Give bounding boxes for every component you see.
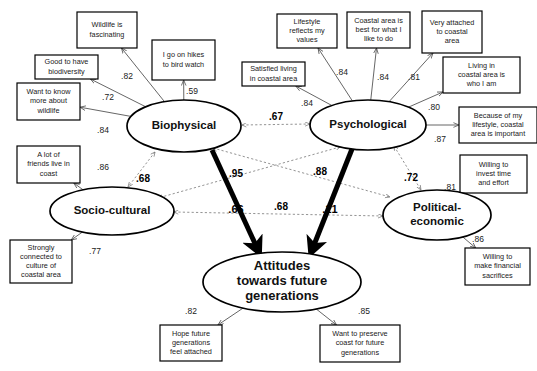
indicator-label: coastal area	[21, 270, 62, 279]
indicator-box: Hope futuregenerationsfeel attached	[160, 325, 222, 361]
construct-attitudes: Attitudestowards futuregenerations	[203, 252, 361, 312]
indicator-label: Hope future	[172, 329, 210, 338]
indicator-label: Want to preserve	[332, 329, 387, 338]
indicator-label: and effort	[478, 178, 509, 187]
indicator-label: to coastal	[436, 27, 468, 36]
factor-loading-label: .84	[301, 98, 313, 108]
indicator-label: feel attached	[170, 347, 212, 356]
indicator-label: wildlife	[37, 106, 60, 115]
construct-label: Socio-cultural	[74, 204, 151, 216]
construct-label: Political-	[413, 201, 461, 213]
indicator-label: fascinating	[90, 30, 125, 39]
factor-loading-label: .72	[102, 92, 114, 102]
construct-label: generations	[245, 288, 319, 303]
indicator-box: Satisfied livingin coastal area	[242, 62, 305, 86]
indicator-label: sacrifices	[482, 271, 513, 280]
correlation-coefficient: .72	[404, 172, 418, 183]
factor-loading-label: .86	[97, 162, 109, 172]
construct-label: Biophysical	[152, 119, 217, 131]
indicator-label: Satisfied living	[250, 64, 297, 73]
factor-loading-label: .85	[358, 306, 370, 316]
indicator-label: Lifestyle	[294, 17, 321, 26]
indicator-label: coast	[40, 169, 57, 178]
indicator-box: Very attachedto coastalarea	[422, 11, 482, 53]
construct-socio_cultural: Socio-cultural	[50, 187, 174, 235]
indicator-label: in coastal area	[250, 74, 298, 83]
indicator-label: Strongly	[28, 243, 55, 252]
indicator-box: Good to havebiodiversity	[35, 55, 98, 79]
structural-path-coefficient: .66	[228, 203, 243, 215]
correlation-coefficient: .95	[229, 168, 243, 179]
indicator-label: friends live in	[27, 159, 70, 168]
indicator-box: Lifestylereflects myvalues	[277, 14, 337, 48]
indicator-box: Want to preservecoast for futuregenerati…	[320, 325, 400, 362]
sem-path-diagram: Wildlife isfascinatingGood to havebiodiv…	[0, 0, 537, 371]
correlation-coefficient: .68	[274, 201, 288, 212]
factor-loading-label: .81	[408, 72, 420, 82]
indicator-label: invest time	[476, 169, 511, 178]
indicator-label: culture of	[26, 261, 57, 270]
indicator-box: Stronglyconnected toculture ofcoastal ar…	[10, 240, 72, 283]
factor-loading-label: .87	[434, 134, 446, 144]
construct-biophysical: Biophysical	[127, 100, 241, 152]
indicator-label: Willing to	[479, 160, 509, 169]
correlation-coefficient: .88	[313, 166, 327, 177]
construct-label: towards future	[237, 273, 327, 288]
indicator-box: Wildlife isfascinating	[77, 12, 137, 48]
factor-loading-label: .77	[89, 246, 101, 256]
indicator-label: Very attached	[430, 18, 475, 27]
indicator-label: best for what I	[356, 25, 402, 34]
indicator-label: make financial	[474, 261, 521, 270]
factor-loading-label: .86	[472, 234, 484, 244]
indicator-label: to bird watch	[163, 60, 204, 69]
indicator-box: Willing tomake financialsacrifices	[465, 248, 530, 285]
indicator-label: Want to know	[27, 87, 72, 96]
indicator-label: who I am	[466, 79, 497, 88]
factor-loading-label: .84	[336, 67, 348, 77]
factor-loading-label: .80	[428, 102, 440, 112]
indicator-label: Good to have	[45, 57, 89, 66]
construct-label: economic	[410, 215, 464, 227]
construct-label: Attitudes	[254, 258, 310, 273]
structural-path-coefficient: .21	[322, 203, 337, 215]
indicator-label: coastal area is	[458, 70, 505, 79]
indicator-label: area is important	[471, 129, 525, 138]
indicator-label: generations	[172, 338, 210, 347]
indicator-box: Willing toinvest timeand effort	[460, 155, 527, 193]
correlation-coefficient: .67	[269, 111, 283, 122]
indicator-label: A lot of	[37, 150, 60, 159]
indicator-box: Coastal area isbest for what Ilike to do	[347, 12, 410, 48]
factor-loading-label: .82	[121, 71, 133, 81]
correlation-coefficient: .68	[136, 173, 150, 184]
indicator-box: I go on hikesto bird watch	[152, 40, 215, 80]
factor-loading-label: .84	[377, 72, 389, 82]
indicator-label: generations	[341, 348, 379, 357]
indicator-box: Living incoastal area iswho I am	[443, 57, 520, 93]
factor-loading-label: .81	[444, 182, 456, 192]
factor-loading-label: .59	[186, 86, 198, 96]
factor-loading-label: .84	[97, 125, 109, 135]
factor-loading-label: .82	[185, 306, 197, 316]
indicator-label: values	[296, 35, 317, 44]
indicator-label: connected to	[20, 252, 62, 261]
indicator-label: lifestyle, coastal	[472, 120, 524, 129]
indicator-label: Willing to	[483, 252, 513, 261]
construct-psychological: Psychological	[310, 100, 426, 150]
indicator-label: Because of my	[474, 111, 523, 120]
indicator-label: more about	[30, 96, 67, 105]
indicator-label: reflects my	[289, 26, 325, 35]
construct-political_economic: Political-economic	[383, 190, 491, 240]
indicator-label: Living in	[468, 61, 495, 70]
indicator-box: Want to knowmore aboutwildlife	[17, 83, 80, 120]
indicator-label: biodiversity	[48, 67, 85, 76]
indicator-label: coast for future	[336, 338, 385, 347]
indicator-box: A lot offriends live incoast	[17, 146, 80, 183]
indicator-label: I go on hikes	[163, 50, 205, 59]
construct-label: Psychological	[329, 118, 406, 130]
indicator-label: like to do	[364, 34, 393, 43]
indicator-label: Wildlife is	[92, 20, 123, 29]
indicator-label: Coastal area is	[354, 16, 403, 25]
indicator-label: area	[445, 36, 461, 45]
indicator-box: Because of mylifestyle, coastalarea is i…	[459, 107, 537, 143]
